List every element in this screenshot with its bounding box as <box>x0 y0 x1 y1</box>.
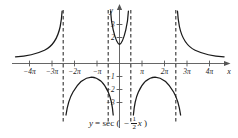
x-tick-label-neg-3pi: −3π <box>46 67 59 76</box>
equation-open-paren: ( <box>114 118 121 128</box>
secant-graph-figure: −4π −3π −2π −π π 2π 3π 4π 3 2 −1 −2 −3 y… <box>0 0 238 138</box>
x-axis-arrowhead <box>224 61 231 66</box>
axis-group <box>12 4 231 128</box>
branch-left-down <box>66 77 113 115</box>
y-tick-label-2: 2 <box>111 33 115 42</box>
x-tick-label-neg-4pi: −4π <box>23 67 36 76</box>
equation-equals: = <box>93 118 102 128</box>
branch-left-outer-up <box>16 11 63 57</box>
x-tick-label-3pi: 3π <box>182 67 191 76</box>
y-tick-label-neg-2: −2 <box>106 85 115 94</box>
equation-denominator: 2 <box>131 124 137 131</box>
x-tick-label-4pi: 4π <box>206 67 214 76</box>
x-tick-labels: −4π −3π −2π −π π 2π 3π 4π <box>23 67 213 76</box>
y-axis-arrowhead <box>117 4 122 10</box>
y-axis-label: y <box>108 6 113 15</box>
branch-right-down <box>133 77 180 115</box>
branch-right-outer-up <box>178 11 225 57</box>
x-tick-label-2pi: 2π <box>161 67 169 76</box>
x-axis-label: x <box>226 67 231 76</box>
x-tick-label-neg-2pi: −2π <box>68 67 81 76</box>
equation-function: sec <box>102 118 114 128</box>
y-tick-label-3: 3 <box>110 20 115 29</box>
x-tick-label-pi: π <box>140 67 144 76</box>
equation-caption: y=sec(−12x) <box>0 116 238 131</box>
equation-fraction: 12 <box>131 116 137 131</box>
y-tick-label-neg-1: −1 <box>106 72 115 81</box>
equation-close-paren: ) <box>142 118 149 128</box>
equation-minus-sign: − <box>122 118 131 128</box>
y-tick-label-neg-3: −3 <box>106 98 115 107</box>
x-tick-label-neg-pi: −π <box>93 67 102 76</box>
